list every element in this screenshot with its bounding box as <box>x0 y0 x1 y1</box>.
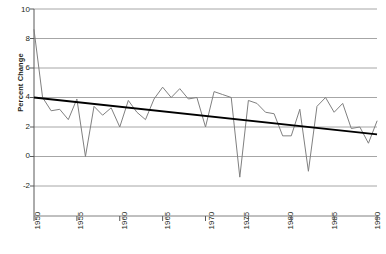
trendline <box>34 98 377 135</box>
x-axis-ticks <box>34 216 377 221</box>
plot-area <box>0 0 386 254</box>
chart-container: Percent Change 10 8 6 4 2 0 -2 1950 1955… <box>0 0 386 254</box>
y-axis-ticks <box>30 9 34 186</box>
